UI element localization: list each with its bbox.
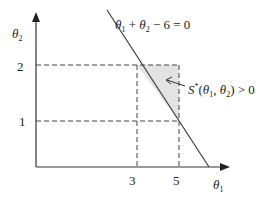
y-axis-arrow-icon — [32, 12, 40, 22]
region-close: ) > 0 — [230, 82, 255, 97]
region-label: S*(θ1, θ2) > 0 — [188, 83, 255, 99]
x-tick-3: 3 — [129, 174, 136, 187]
y-tick-2: 2 — [17, 60, 24, 73]
line-equation-label: θ1 + θ2 − 6 = 0 — [115, 18, 190, 34]
shaded-region — [137, 65, 179, 121]
y-axis-label: θ2 — [12, 27, 22, 43]
eq-rest: − 6 = 0 — [150, 17, 191, 32]
eq-plus: + — [125, 17, 139, 32]
x-axis-subscript: 1 — [219, 185, 223, 194]
x-tick-5: 5 — [173, 174, 180, 187]
y-axis-subscript: 2 — [18, 34, 22, 43]
y-tick-1: 1 — [19, 115, 26, 128]
x-axis-arrow-icon — [220, 163, 230, 171]
x-axis-label: θ1 — [213, 178, 223, 194]
